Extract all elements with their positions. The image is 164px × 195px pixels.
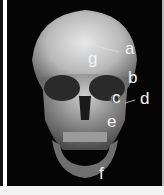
teeth <box>63 132 107 142</box>
left-border <box>0 0 3 186</box>
label-b: b <box>128 69 137 86</box>
label-c: c <box>112 89 121 106</box>
right-border <box>162 0 164 186</box>
label-d-line <box>125 100 135 103</box>
label-a: a <box>125 40 134 57</box>
label-d: d <box>140 90 149 107</box>
left-orbit <box>44 75 80 101</box>
label-f: f <box>99 165 104 182</box>
nasal-cavity <box>79 96 91 120</box>
label-e: e <box>107 113 116 130</box>
label-g: g <box>88 50 97 67</box>
xray-image-panel: a b c d e f g <box>7 0 162 186</box>
bottom-margin <box>0 186 164 195</box>
skull-xray <box>7 0 162 186</box>
